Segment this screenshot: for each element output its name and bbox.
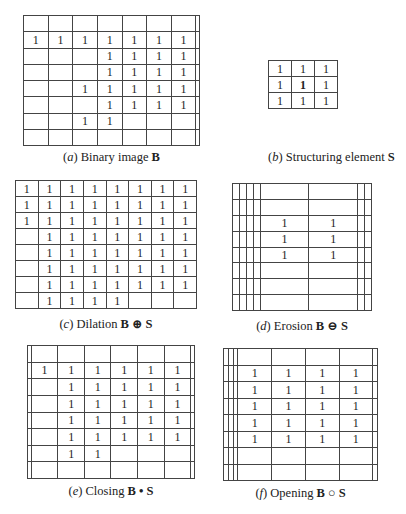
grid-cell: 1 <box>58 412 85 429</box>
grid-row: 11111111 <box>16 213 197 229</box>
grid-cell <box>305 349 339 366</box>
grid-cell: 1 <box>260 247 309 263</box>
grid-cell: 1 <box>106 245 129 261</box>
grid-cell <box>191 445 195 462</box>
grid-row: 1111111 <box>16 229 197 245</box>
grid-cell <box>196 48 200 64</box>
grid-cell <box>260 199 309 215</box>
grid-row: 1111111 <box>16 245 197 261</box>
grid-cell <box>246 279 253 295</box>
grid-cell <box>122 113 147 129</box>
grid-row: 1111 <box>224 431 378 448</box>
grid-cell: 1 <box>61 181 84 197</box>
grid-cell: 1 <box>151 229 174 245</box>
grid-cell: 1 <box>339 398 373 415</box>
grid-cell: 1 <box>309 231 358 247</box>
grid-cell: 1 <box>122 48 147 64</box>
grid-cell: 1 <box>97 64 122 80</box>
grid-cell: 1 <box>339 365 373 382</box>
grid-row: 1111 <box>224 415 378 432</box>
grid-cell: 1 <box>129 197 152 213</box>
grid-row: 1111 <box>224 382 378 399</box>
grid-cell: 1 <box>106 213 129 229</box>
grid-cell: 1 <box>111 395 138 412</box>
grid-cell: 1 <box>106 293 129 309</box>
grid-cell <box>31 379 58 396</box>
grid-cell: 1 <box>122 81 147 97</box>
grid-cell: 1 <box>97 97 122 113</box>
grid-cell: 1 <box>164 395 191 412</box>
grid-row: 1111111 <box>16 261 197 277</box>
grid-cell: 1 <box>31 362 58 379</box>
grid-row <box>224 464 378 481</box>
grid-cell <box>364 215 371 231</box>
grid-cell <box>246 215 253 231</box>
caption-label: (d) <box>256 319 274 333</box>
grid-cell <box>138 445 165 462</box>
grid-cell <box>48 64 73 80</box>
grid-cell: 1 <box>164 379 191 396</box>
grid-cell: 1 <box>147 32 172 48</box>
grid-cell: 1 <box>84 362 111 379</box>
grid-row: 11111111 <box>16 181 197 197</box>
grid-cell: 1 <box>147 97 172 113</box>
grid-cell <box>253 247 260 263</box>
grid-cell <box>16 261 39 277</box>
grid-cell <box>129 293 152 309</box>
grid-cell <box>147 129 172 145</box>
grid-cell: 1 <box>83 197 106 213</box>
grid-cell: 1 <box>138 362 165 379</box>
grid-cell <box>309 295 358 311</box>
grid-cell <box>373 464 378 481</box>
grid-cell: 1 <box>305 365 339 382</box>
grid-row: 11 <box>233 215 372 231</box>
caption-text: Binary image <box>81 150 152 164</box>
grid-row: 1111 <box>24 64 200 80</box>
caption-math: B • S <box>128 484 154 498</box>
grid-row: 11111 <box>24 81 200 97</box>
grid-row <box>233 279 372 295</box>
grid-cell: 1 <box>272 398 306 415</box>
grid-cell: 1 <box>272 415 306 432</box>
grid-cell <box>373 382 378 399</box>
grid-cell: 1 <box>111 362 138 379</box>
grid-cell <box>48 129 73 145</box>
grid-row: 11 <box>24 113 200 129</box>
grid-cell: 1 <box>292 61 315 77</box>
grid-cell <box>309 184 358 200</box>
grid-cell <box>73 16 98 32</box>
grid-cell <box>239 247 246 263</box>
grid-cell <box>358 295 365 311</box>
grid-cell: 1 <box>38 277 61 293</box>
grid-cell <box>31 445 58 462</box>
grid-cell: 1 <box>38 213 61 229</box>
grid-f: 11111111111111111111 <box>223 348 378 481</box>
grid-cell: 1 <box>151 245 174 261</box>
grid-cell: 1 <box>147 81 172 97</box>
grid-cell <box>24 16 49 32</box>
grid-cell <box>339 349 373 366</box>
grid-cell <box>246 295 253 311</box>
grid-cell <box>260 295 309 311</box>
grid-cell <box>339 464 373 481</box>
grid-cell: 1 <box>174 197 197 213</box>
grid-row <box>28 462 195 479</box>
grid-cell <box>239 215 246 231</box>
grid-cell: 1 <box>129 229 152 245</box>
grid-cell: 1 <box>106 197 129 213</box>
grid-cell: 1 <box>174 213 197 229</box>
grid-cell: 1 <box>164 412 191 429</box>
grid-cell <box>305 448 339 465</box>
grid-cell <box>196 129 200 145</box>
grid-cell: 1 <box>174 181 197 197</box>
grid-cell <box>164 462 191 479</box>
grid-cell <box>246 231 253 247</box>
grid-cell: 1 <box>106 277 129 293</box>
grid-cell <box>171 16 196 32</box>
caption-text: Closing <box>86 484 128 498</box>
grid-cell: 1 <box>171 32 196 48</box>
grid-row <box>24 129 200 145</box>
grid-cell <box>16 229 39 245</box>
grid-cell <box>364 184 371 200</box>
grid-d: 111111 <box>232 183 372 311</box>
